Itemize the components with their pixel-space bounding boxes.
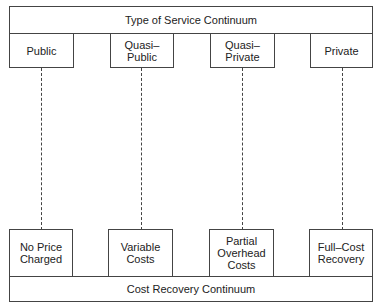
cost-level-no-price: No Price Charged <box>9 229 73 277</box>
connector-line-quasi-private <box>242 68 243 230</box>
cost-recovery-footer: Cost Recovery Continuum <box>9 276 373 302</box>
cost-level-full-cost: Full–Cost Recovery <box>309 229 373 277</box>
service-type-label: Quasi– Public <box>125 39 160 63</box>
cost-level-label: Full–Cost Recovery <box>318 241 364 265</box>
service-type-public: Public <box>9 33 74 68</box>
service-type-quasi-public: Quasi– Public <box>110 33 174 68</box>
cost-level-label: Partial Overhead Costs <box>217 235 265 271</box>
cost-recovery-title: Cost Recovery Continuum <box>127 283 255 295</box>
connector-line-public <box>41 68 42 230</box>
service-continuum-header: Type of Service Continuum <box>9 6 373 34</box>
service-type-label: Private <box>324 45 358 57</box>
cost-level-variable: Variable Costs <box>108 229 173 277</box>
connector-line-private <box>342 68 343 230</box>
connector-line-quasi-public <box>141 68 142 230</box>
service-type-private: Private <box>310 33 373 68</box>
service-type-label: Public <box>27 45 57 57</box>
cost-level-label: No Price Charged <box>20 241 62 265</box>
service-type-quasi-private: Quasi– Private <box>210 33 275 68</box>
service-continuum-title: Type of Service Continuum <box>125 14 257 26</box>
cost-level-label: Variable Costs <box>121 241 161 265</box>
service-type-label: Quasi– Private <box>225 39 260 63</box>
cost-level-partial-overhead: Partial Overhead Costs <box>209 229 274 277</box>
